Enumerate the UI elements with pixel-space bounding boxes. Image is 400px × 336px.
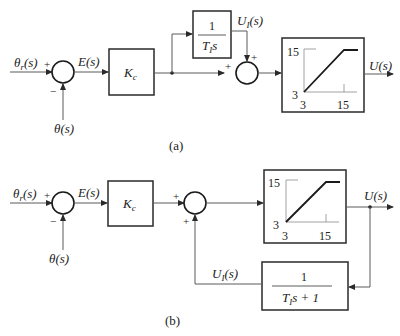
- input-label: θr(s): [13, 186, 37, 203]
- sum1-plus-sign: +: [44, 58, 50, 70]
- summing-junction-2: [236, 62, 258, 84]
- sat-y-high: 15: [268, 176, 280, 190]
- integral-branch: [172, 34, 192, 73]
- lag-numerator: 1: [301, 270, 307, 284]
- sum2-left-plus: +: [225, 60, 231, 72]
- summing-junction-2: [184, 192, 206, 214]
- sat-y-low: 3: [273, 218, 279, 232]
- caption-b: (b): [165, 313, 180, 328]
- sum2-bottom-plus: +: [183, 215, 189, 227]
- lag-denominator: TIs + 1: [282, 290, 319, 307]
- integral-output-label: UI(s): [237, 13, 263, 30]
- sum2-top-plus: +: [251, 51, 257, 63]
- sat-y-high: 15: [287, 45, 299, 59]
- input-label: θr(s): [14, 55, 38, 72]
- sum1-plus-sign: +: [44, 189, 50, 201]
- feedback-label: θ(s): [49, 251, 69, 266]
- diagram-a: θr(s) + − θ(s) E(s) Kc 1 TIs UI(s) + +: [10, 11, 393, 153]
- sat-x-high: 15: [337, 98, 349, 112]
- lag-output-label: UI(s): [212, 266, 238, 283]
- sat-x-low: 3: [282, 229, 288, 243]
- summing-junction-1: [52, 61, 74, 83]
- sat-x-low: 3: [300, 98, 306, 112]
- error-label: E(s): [77, 185, 100, 200]
- output-label: U(s): [369, 58, 392, 73]
- sum1-minus-sign: −: [50, 85, 56, 97]
- diagram-b: θr(s) + − θ(s) E(s) Kc + + 15 3 3 15 U(s…: [10, 170, 393, 328]
- caption-a: (a): [169, 138, 183, 153]
- block-diagrams: θr(s) + − θ(s) E(s) Kc 1 TIs UI(s) + +: [0, 0, 400, 336]
- lag-input-arrow: [349, 207, 370, 287]
- output-label: U(s): [364, 188, 387, 203]
- sat-x-high: 15: [319, 229, 331, 243]
- sum2-left-plus: +: [173, 190, 179, 202]
- feedback-label: θ(s): [54, 121, 74, 136]
- sum1-minus-sign: −: [50, 215, 56, 227]
- integrator-numerator: 1: [209, 19, 215, 33]
- integral-output-arrow: [231, 31, 247, 61]
- error-label: E(s): [77, 54, 100, 69]
- sat-y-low: 3: [292, 88, 298, 102]
- summing-junction-1: [52, 192, 74, 214]
